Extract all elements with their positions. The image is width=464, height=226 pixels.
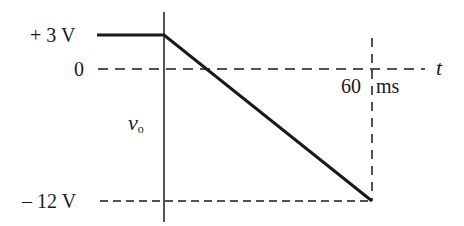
label-ms: ms xyxy=(376,76,399,96)
signal-subscript: o xyxy=(138,122,144,136)
waveform-diagram: + 3 V 0 – 12 V t 60 ms vo xyxy=(0,0,464,226)
label-vo: vo xyxy=(128,112,144,134)
label-60: 60 xyxy=(341,76,361,96)
label-plus3v: + 3 V xyxy=(30,25,75,45)
label-minus12v: – 12 V xyxy=(22,191,76,211)
signal-name: v xyxy=(128,110,138,135)
label-t-axis: t xyxy=(436,57,442,79)
label-zero: 0 xyxy=(74,59,84,79)
